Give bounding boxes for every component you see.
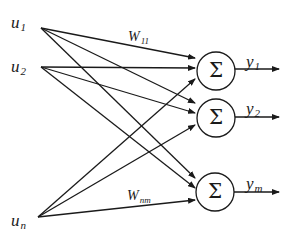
sigma-icon-neuron-2: Σ [197, 107, 235, 127]
input-label-u1: u1 [11, 14, 26, 33]
sigma-icon-neuron-1: Σ [197, 60, 235, 80]
edge-u2-n1 [41, 67, 195, 68]
edge-un-n1 [38, 79, 195, 217]
output-label-ym: ym [246, 175, 263, 194]
edge-u1-nm [41, 28, 195, 178]
output-label-y1: y1 [246, 53, 260, 72]
edge-u2-n2 [41, 67, 195, 113]
input-label-u2: u2 [11, 58, 26, 77]
edge-u1-n1 [41, 28, 195, 58]
weight-label-wnm: Wnm [127, 187, 151, 205]
weight-label-w11: W11 [128, 28, 149, 46]
sigma-icon-neuron-m: Σ [196, 181, 234, 201]
input-label-un: un [11, 212, 26, 231]
edge-u1-n2 [41, 28, 195, 103]
output-label-y2: y2 [246, 100, 260, 119]
